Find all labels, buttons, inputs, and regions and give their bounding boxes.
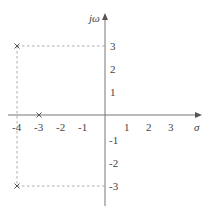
x-tick: 3 <box>168 121 174 133</box>
s-plane-diagram: jω σ -4 -3 -2 -1 1 2 3 3 2 1 -1 -2 -3 <box>0 0 211 214</box>
y-axis-label: jω <box>87 12 100 24</box>
y-tick: 1 <box>110 86 116 98</box>
x-tick: -3 <box>34 121 44 133</box>
real-axis-arrow-icon <box>195 112 202 118</box>
x-tick: -4 <box>12 121 22 133</box>
imaginary-axis-arrow-icon <box>102 13 108 20</box>
x-tick: -1 <box>78 121 87 133</box>
y-tick: -2 <box>109 157 118 169</box>
y-tick: 3 <box>110 40 116 52</box>
x-axis-label: σ <box>194 121 200 133</box>
x-tick: 1 <box>124 121 130 133</box>
x-tick: 2 <box>146 121 152 133</box>
pole-markers <box>15 44 42 189</box>
x-tick: -2 <box>56 121 65 133</box>
y-tick: -1 <box>109 134 118 146</box>
y-tick: 2 <box>110 63 116 75</box>
y-tick: -3 <box>109 180 119 192</box>
